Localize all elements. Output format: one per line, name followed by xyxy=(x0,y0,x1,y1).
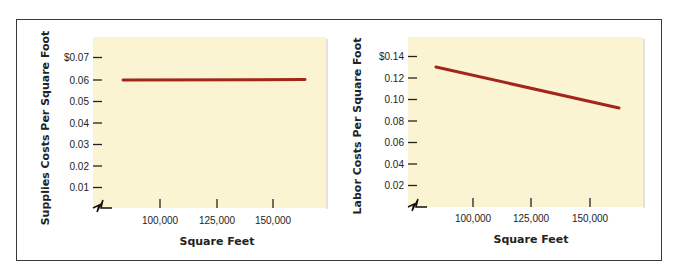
y-tick-label: 0.03 xyxy=(70,139,90,150)
supplies-cost-line xyxy=(123,80,305,81)
y-axis-title: Supplies Costs Per Square Foot xyxy=(39,31,52,226)
y-tick-label: 0.06 xyxy=(385,137,405,148)
x-tick-label: 125,000 xyxy=(199,215,236,226)
y-tick-label: 0.04 xyxy=(70,118,90,129)
x-tick-label: 125,000 xyxy=(513,213,550,224)
y-tick-label: 0.02 xyxy=(70,161,90,172)
plot-area xyxy=(93,37,326,208)
plot-shadow xyxy=(326,39,328,209)
y-tick-label: 0.08 xyxy=(385,116,405,127)
x-tick-labels: 100,000 125,000 150,000 xyxy=(142,215,292,226)
y-axis-title: Labor Costs Per Square Foot xyxy=(351,38,364,215)
y-tick-label: 0.02 xyxy=(385,180,405,191)
x-tick-label: 100,000 xyxy=(455,213,492,224)
labor-chart: $0.14 0.12 0.10 0.08 0.06 0.04 0.02 100,… xyxy=(351,37,645,246)
x-axis-title: Square Feet xyxy=(179,235,254,248)
supplies-chart: $0.07 0.06 0.05 0.04 0.03 0.02 0.01 100,… xyxy=(39,31,328,248)
plot-area xyxy=(408,37,643,207)
y-tick-label: 0.05 xyxy=(70,96,90,107)
x-tick-labels: 100,000 125,000 150,000 xyxy=(455,213,609,224)
x-tick-label: 150,000 xyxy=(572,213,609,224)
x-tick-label: 150,000 xyxy=(255,215,292,226)
y-tick-label: 0.12 xyxy=(385,73,405,84)
y-tick-label: $0.14 xyxy=(379,51,404,62)
plot-shadow xyxy=(643,39,645,208)
y-tick-labels: $0.07 0.06 0.05 0.04 0.03 0.02 0.01 xyxy=(64,52,89,193)
x-tick-label: 100,000 xyxy=(142,215,179,226)
y-tick-label: 0.04 xyxy=(385,159,405,170)
charts-canvas: $0.07 0.06 0.05 0.04 0.03 0.02 0.01 100,… xyxy=(0,0,677,274)
y-tick-label: $0.07 xyxy=(64,52,89,63)
y-tick-label: 0.06 xyxy=(70,75,90,86)
y-tick-labels: $0.14 0.12 0.10 0.08 0.06 0.04 0.02 xyxy=(379,51,404,191)
y-tick-label: 0.10 xyxy=(385,94,405,105)
y-tick-label: 0.01 xyxy=(70,182,90,193)
x-axis-title: Square Feet xyxy=(493,233,568,246)
